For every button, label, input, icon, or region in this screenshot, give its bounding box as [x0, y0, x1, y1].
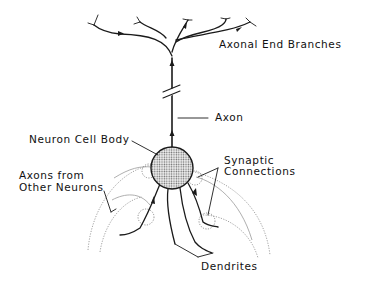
neuron-cell-body — [151, 147, 193, 189]
neuron-diagram: Axonal End Branches Axon Neuron Cell Bod… — [0, 0, 368, 282]
dendrites — [120, 183, 218, 253]
label-dendrites: Dendrites — [201, 260, 258, 272]
label-other-neurons: Other Neurons — [19, 181, 104, 193]
label-axon: Axon — [215, 111, 244, 123]
label-connections: Connections — [224, 165, 295, 177]
label-neuron-cell-body: Neuron Cell Body — [29, 133, 130, 145]
arrowhead-icon — [170, 130, 175, 136]
label-axons-from: Axons from — [19, 169, 84, 181]
label-axonal-end-branches: Axonal End Branches — [219, 38, 342, 50]
axon — [162, 58, 183, 147]
arrowhead-icon — [170, 60, 175, 66]
arrowhead-icon — [118, 31, 124, 36]
